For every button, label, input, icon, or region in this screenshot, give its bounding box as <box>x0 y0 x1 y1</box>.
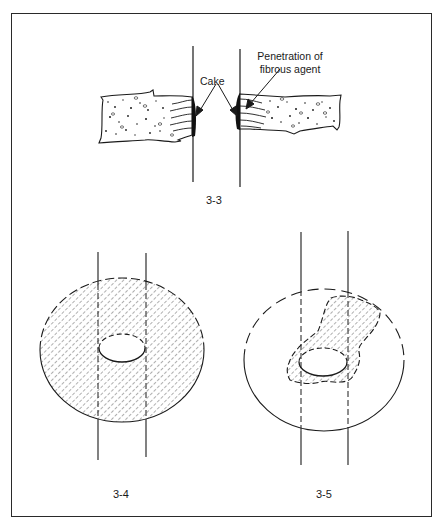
penetration-label: Penetration of fibrous agent <box>250 50 330 75</box>
figure-3-5-drawing <box>244 231 404 465</box>
penetration-label-line1: Penetration of <box>250 50 330 63</box>
penetration-label-line2: fibrous agent <box>250 63 330 76</box>
figure-caption-3-5: 3-5 <box>316 488 332 500</box>
left-cake <box>192 96 196 137</box>
figure-caption-3-3: 3-3 <box>206 194 222 206</box>
cake-label: Cake <box>200 75 225 88</box>
figure-3-4-drawing <box>40 252 204 460</box>
figure-caption-3-4: 3-4 <box>113 488 129 500</box>
